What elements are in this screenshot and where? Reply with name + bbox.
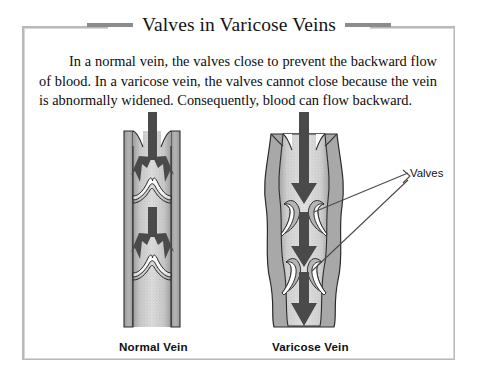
figure-title-bar: Valves in Varicose Veins — [0, 14, 478, 36]
figure-body-text: In a normal vein, the valves close to pr… — [39, 52, 437, 110]
figure-page: Valves in Varicose Veins In a normal vei… — [0, 0, 478, 377]
title-rule-left — [87, 23, 133, 27]
caption-normal-vein: Normal Vein — [119, 340, 188, 353]
figure-title: Valves in Varicose Veins — [142, 14, 336, 36]
caption-varicose-vein: Varicose Vein — [272, 340, 349, 353]
valves-callout-label: Valves — [410, 167, 443, 179]
title-rule-right — [345, 23, 391, 27]
